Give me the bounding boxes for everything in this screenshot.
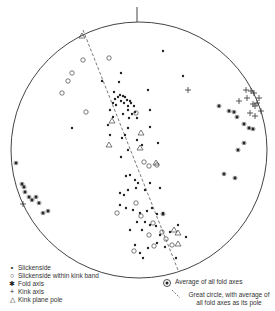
- great-circle-legend-dash: [172, 290, 180, 298]
- great-circle-label: Great circle, with average of all fold a…: [186, 291, 272, 307]
- average-fold-axes-marker: [164, 280, 171, 287]
- asterisk-icon: ✱: [6, 280, 18, 288]
- legend-item-slickenside-kink: ○Slickenside within kink band: [6, 272, 99, 280]
- triangle-icon: △: [6, 296, 18, 304]
- legend-item-kink-axis: +Kink axis: [6, 288, 99, 296]
- dot-icon: •: [6, 264, 18, 272]
- data-points: [14, 33, 264, 259]
- great-circle-dashed: [83, 30, 178, 270]
- legend-item-slickenside: •Slickenside: [6, 264, 99, 272]
- legend-item-kink-pole: △Kink plane pole: [6, 296, 99, 304]
- circle-icon: ○: [6, 272, 18, 280]
- legend: •Slickenside ○Slickenside within kink ba…: [6, 264, 99, 304]
- plus-icon: +: [6, 288, 18, 296]
- average-label: Average of all fold axes: [175, 278, 242, 286]
- legend-item-fold-axis: ✱Fold axis: [6, 280, 99, 288]
